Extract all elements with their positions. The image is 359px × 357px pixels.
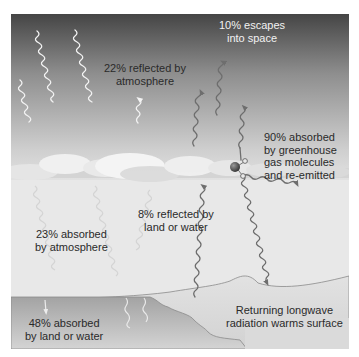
label-absorbed-by-atmosphere: 23% absorbed by atmosphere (35, 228, 108, 253)
label-absorbed-by-land: 48% absorbed by land or water (25, 317, 103, 342)
label-returning-longwave: Returning longwave radiation warms surfa… (226, 304, 343, 329)
label-reflected-by-land: 8% reflected by land or water (138, 208, 214, 233)
label-greenhouse-absorbed: 90% absorbed by greenhouse gas molecules… (264, 131, 337, 181)
label-reflected-by-atmosphere: 22% reflected by atmosphere (104, 62, 186, 87)
label-escapes-into-space: 10% escapes into space (219, 19, 285, 44)
